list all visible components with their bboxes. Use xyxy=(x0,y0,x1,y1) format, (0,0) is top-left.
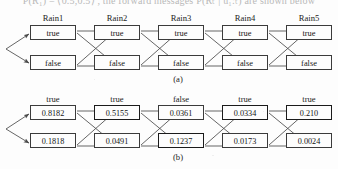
node-b-step5-false: 0.0024 xyxy=(286,133,332,148)
node-b-step3-false: 0.1237 xyxy=(158,133,204,148)
node-a-rain3-false: false xyxy=(158,55,204,70)
node-b-step2-false: 0.0491 xyxy=(94,133,140,148)
node-b-step4-false: 0.0173 xyxy=(222,133,268,148)
column-header-rain2: Rain2 xyxy=(94,13,140,23)
node-a-rain3-true: true xyxy=(158,25,204,40)
node-a-rain5-true: true xyxy=(286,25,332,40)
caption-panel-b: (b) xyxy=(158,152,198,162)
node-a-rain2-true: true xyxy=(94,25,140,40)
node-b-step1-false: 0.1818 xyxy=(30,133,76,148)
column-header-b-1: true xyxy=(30,94,76,104)
node-a-rain1-false: false xyxy=(30,55,76,70)
node-a-rain1-true: true xyxy=(30,25,76,40)
node-a-rain4-false: false xyxy=(222,55,268,70)
node-b-step3-true: 0.0361 xyxy=(158,105,204,120)
node-a-rain2-false: false xyxy=(94,55,140,70)
column-header-b-3: false xyxy=(158,94,204,104)
column-header-rain3: Rain3 xyxy=(158,13,204,23)
node-b-step1-true: 0.8182 xyxy=(30,105,76,120)
column-header-b-4: true xyxy=(222,94,268,104)
node-b-step5-true: 0.210 xyxy=(286,105,332,120)
caption-panel-a: (a) xyxy=(158,74,198,84)
node-a-rain5-false: false xyxy=(286,55,332,70)
column-header-b-5: true xyxy=(286,94,332,104)
column-header-b-2: true xyxy=(94,94,140,104)
node-b-step4-true: 0.0334 xyxy=(222,105,268,120)
cut-off-caption-text: P(R₁) = ⟨0.5,0.5⟩ , the forward messages… xyxy=(0,0,338,6)
node-a-rain4-true: true xyxy=(222,25,268,40)
column-header-rain5: Rain5 xyxy=(286,13,332,23)
figure-canvas: P(R₁) = ⟨0.5,0.5⟩ , the forward messages… xyxy=(0,0,338,169)
node-b-step2-true: 0.5155 xyxy=(94,105,140,120)
column-header-rain1: Rain1 xyxy=(30,13,76,23)
column-header-rain4: Rain4 xyxy=(222,13,268,23)
